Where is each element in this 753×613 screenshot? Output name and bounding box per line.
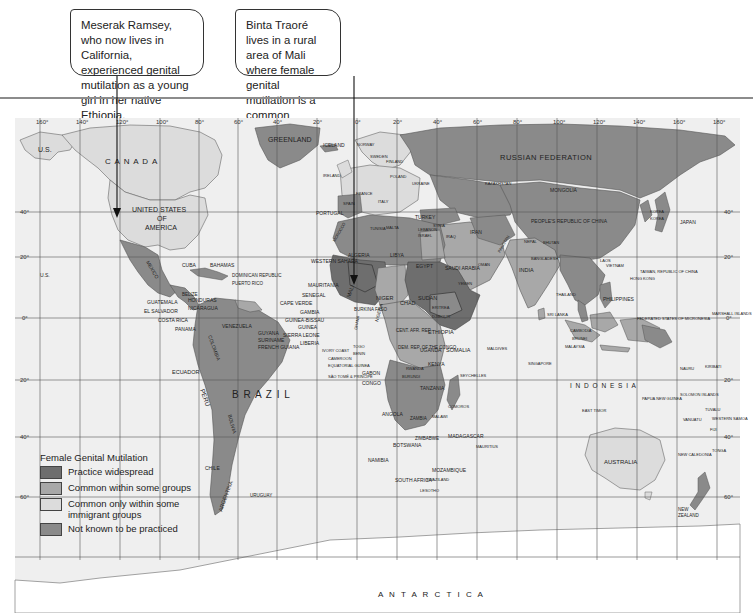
svg-text:ITALY: ITALY [378,199,389,204]
svg-text:60°: 60° [473,119,483,125]
svg-text:GAMBIA: GAMBIA [300,309,320,315]
svg-text:DOMINICAN REPUBLIC: DOMINICAN REPUBLIC [232,273,282,278]
svg-text:100°: 100° [553,119,566,125]
svg-text:SOUTH AFRICA: SOUTH AFRICA [395,477,433,483]
svg-text:40°: 40° [724,209,734,215]
svg-text:CONGO: CONGO [362,380,381,386]
svg-text:20°: 20° [20,377,30,383]
svg-text:0°: 0° [355,119,361,125]
svg-text:KOREA: KOREA [650,216,664,221]
svg-text:NEW: NEW [678,507,689,512]
svg-text:B R A Z I L: B R A Z I L [232,389,291,400]
svg-text:ETHIOPIA: ETHIOPIA [428,329,454,335]
svg-text:IVORY COAST: IVORY COAST [322,348,350,353]
svg-text:HONDURAS: HONDURAS [188,297,217,303]
svg-text:RWANDA: RWANDA [406,366,424,371]
svg-text:U.S.: U.S. [40,272,50,278]
legend-swatch [40,523,62,536]
svg-text:IRAQ: IRAQ [446,234,456,239]
legend-label: Common within some groups [68,482,191,493]
svg-text:MARSHALL ISLANDS: MARSHALL ISLANDS [712,311,752,316]
svg-text:TOGO: TOGO [353,344,365,349]
svg-text:U.S.: U.S. [38,146,52,153]
svg-text:NICARAGUA: NICARAGUA [188,305,218,311]
svg-text:COSTA RICA: COSTA RICA [158,317,189,323]
svg-text:UGANDA: UGANDA [420,347,442,353]
svg-text:SRI LANKA: SRI LANKA [547,312,568,317]
svg-text:THAILAND: THAILAND [556,292,576,297]
greenland-landmass [255,124,320,168]
svg-text:NAMIBIA: NAMIBIA [368,457,389,463]
svg-text:160°: 160° [36,119,49,125]
legend-swatch [40,482,62,495]
svg-text:HONG KONG: HONG KONG [630,276,655,281]
svg-text:NAURU: NAURU [680,366,694,371]
svg-text:EQUATORIAL GUINEA: EQUATORIAL GUINEA [328,363,370,368]
legend-label: Practice widespread [68,466,154,477]
svg-text:CAMEROON: CAMEROON [328,356,352,361]
svg-text:URUGUAY: URUGUAY [250,493,272,498]
svg-text:LESOTHO: LESOTHO [420,488,439,493]
svg-text:FIJI: FIJI [710,427,717,432]
svg-text:80°: 80° [195,119,205,125]
svg-text:GUINEA-BISSAU: GUINEA-BISSAU [285,317,325,323]
svg-text:40°: 40° [20,434,30,440]
svg-text:SENEGAL: SENEGAL [302,292,326,298]
legend-swatch [40,498,62,511]
svg-text:0°: 0° [22,315,28,321]
legend-title: Female Genital Mutilation [40,452,210,463]
svg-text:ISRAEL: ISRAEL [418,233,433,238]
png-landmass [642,325,672,348]
svg-text:IRAN: IRAN [470,229,482,235]
svg-text:COMOROS: COMOROS [448,404,469,409]
svg-text:AMERICA: AMERICA [145,224,177,231]
svg-text:ZEALAND: ZEALAND [678,513,700,518]
svg-text:BURUNDI: BURUNDI [402,374,420,379]
svg-text:NEW CALEDONIA: NEW CALEDONIA [678,452,712,457]
svg-text:BOTSWANA: BOTSWANA [393,442,422,448]
svg-text:CAMBODIA: CAMBODIA [570,328,592,333]
svg-text:BAHAMAS: BAHAMAS [210,262,235,268]
svg-text:JAPAN: JAPAN [680,219,696,225]
svg-text:40°: 40° [273,119,283,125]
svg-text:WESTERN SAMOA: WESTERN SAMOA [712,416,748,421]
svg-text:ZAMBIA: ZAMBIA [410,416,427,421]
svg-text:PEOPLE'S REPUBLIC OF CHINA: PEOPLE'S REPUBLIC OF CHINA [531,218,608,224]
svg-text:TURKEY: TURKEY [415,214,436,220]
southeast-asia-landmass [560,255,605,305]
svg-text:PANAMA: PANAMA [175,326,196,332]
svg-text:VIETNAM: VIETNAM [606,263,624,268]
svg-text:AUSTRALIA: AUSTRALIA [604,459,637,465]
svg-text:160°: 160° [673,119,686,125]
svg-text:INDIA: INDIA [519,267,534,273]
svg-text:CUBA: CUBA [182,262,197,268]
svg-text:60°: 60° [234,119,244,125]
svg-text:GUATEMALA: GUATEMALA [147,299,178,305]
svg-text:PHILIPPINES: PHILIPPINES [603,296,635,302]
svg-text:120°: 120° [116,119,129,125]
svg-text:CAPE VERDE: CAPE VERDE [280,300,313,306]
svg-text:EAST TIMOR: EAST TIMOR [582,408,606,413]
svg-text:TANZANIA: TANZANIA [420,385,445,391]
svg-text:C A N A D A: C A N A D A [105,157,158,166]
legend-item-not-known: Not known to be practiced [40,523,210,536]
svg-text:KENYA: KENYA [428,361,445,367]
svg-text:VANUATU: VANUATU [683,417,702,422]
svg-text:GHANA: GHANA [353,315,360,330]
svg-text:MALAYSIA: MALAYSIA [565,344,585,349]
svg-text:40°: 40° [20,209,30,215]
svg-text:KIRIBATI: KIRIBATI [705,364,721,369]
svg-text:ALGERIA: ALGERIA [348,252,370,258]
svg-text:WESTERN SAHARA: WESTERN SAHARA [311,258,359,264]
svg-text:GUYANA: GUYANA [258,330,279,336]
legend-label: Common only within some immigrant groups [68,498,210,520]
svg-text:BANGLADESH: BANGLADESH [531,256,558,261]
svg-text:LEBANON: LEBANON [418,227,437,232]
svg-text:A N T A R C T I C A: A N T A R C T I C A [378,590,485,599]
svg-text:40°: 40° [724,434,734,440]
svg-text:ZIMBABWE: ZIMBABWE [415,436,439,441]
latitude-labels-left: 40° 20° 0° 20° 40° 60° [20,209,30,500]
svg-text:MALDIVES: MALDIVES [487,346,508,351]
svg-text:180°: 180° [713,119,726,125]
svg-text:SURINAME: SURINAME [258,337,285,343]
